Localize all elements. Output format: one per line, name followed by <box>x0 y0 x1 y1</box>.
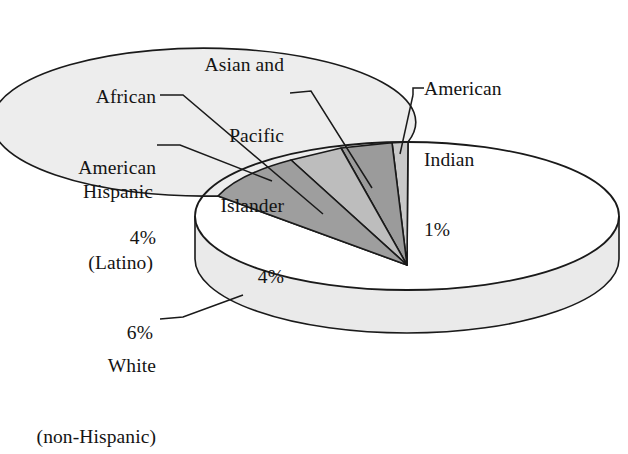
label-asian-pacific-islander-line1: Asian and <box>140 53 284 77</box>
label-american-indian-line2: Indian <box>424 148 604 172</box>
leader-line-american-indian <box>413 88 424 95</box>
label-african-american-line1: African <box>0 85 156 109</box>
label-white-non-hispanic-line2: (non-Hispanic) <box>0 425 156 449</box>
label-asian-pacific-islander-value: 4% <box>140 265 284 289</box>
label-american-indian-value: 1% <box>424 218 604 242</box>
label-american-indian: American Indian 1% <box>424 30 604 289</box>
label-hispanic-latino-line2: (Latino) <box>0 251 153 275</box>
label-hispanic-latino-line1: Hispanic <box>0 180 153 204</box>
label-white-non-hispanic: White (non-Hispanic) 85% <box>0 307 156 454</box>
pie-chart-figure: African American 4% Asian and Pacific Is… <box>0 0 628 454</box>
label-white-non-hispanic-line1: White <box>0 354 156 378</box>
label-asian-pacific-islander-line3: Islander <box>140 194 284 218</box>
label-asian-pacific-islander: Asian and Pacific Islander 4% <box>140 6 284 335</box>
label-american-indian-line1: American <box>424 77 604 101</box>
label-asian-pacific-islander-line2: Pacific <box>140 124 284 148</box>
